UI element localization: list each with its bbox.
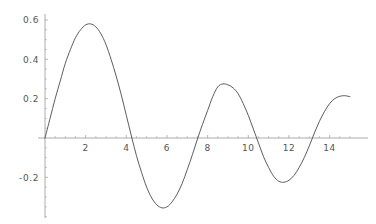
x-tick-label: 14 [323,143,336,153]
y-axis-tick-labels: -0.20.20.40.6 [19,15,39,182]
x-tick-label: 12 [283,143,296,153]
y-axis-major-ticks [45,20,48,177]
data-curve-series-0 [45,24,350,208]
x-tick-label: 4 [123,143,129,153]
x-axis-major-ticks [86,135,330,138]
x-axis-tick-labels: 2468101214 [82,143,335,153]
x-tick-label: 10 [242,143,255,153]
plot-figure: 2468101214 -0.20.20.40.6 [0,0,376,224]
x-tick-label: 6 [164,143,170,153]
damped-sine-plot: 2468101214 -0.20.20.40.6 [0,0,376,224]
x-tick-label: 2 [82,143,88,153]
y-tick-label: 0.6 [23,15,39,25]
x-tick-label: 8 [204,143,210,153]
y-tick-label: -0.2 [19,173,39,183]
y-tick-label: 0.4 [23,55,39,65]
y-tick-label: 0.2 [23,94,39,104]
